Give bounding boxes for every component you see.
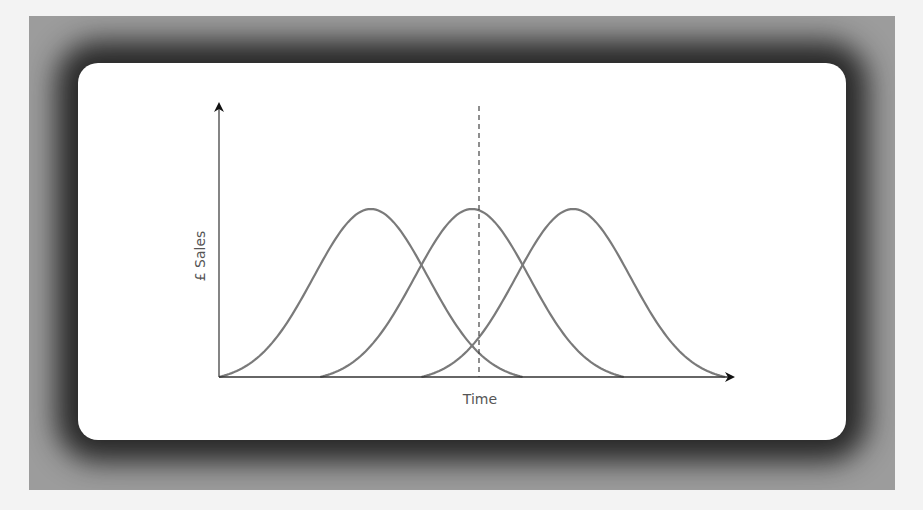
curves-group — [219, 209, 725, 377]
sales-curve-1 — [219, 209, 523, 377]
y-axis-label: £ Sales — [192, 231, 208, 282]
x-axis-label: Time — [462, 391, 497, 407]
sales-curve-3 — [421, 209, 725, 377]
sales-curve-2 — [320, 209, 624, 377]
sales-lifecycle-chart: £ Sales Time — [0, 0, 923, 510]
